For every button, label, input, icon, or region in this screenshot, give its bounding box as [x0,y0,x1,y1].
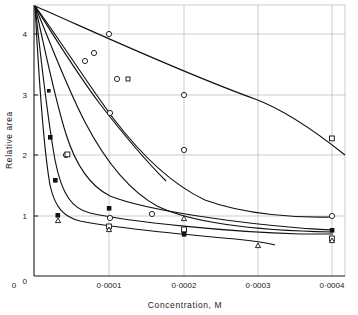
xtick-label-0: 0 [12,281,17,290]
tick-marks [34,34,38,216]
marker-open-triangle [55,218,60,223]
marker-open-square [65,152,70,157]
y-axis-title: Relative area [4,111,14,169]
xtick-label-0.0002: 0·0002 [172,281,197,290]
marker-filled-square [53,178,58,183]
marker-open-square [182,227,187,232]
marker-open-circle [114,76,119,81]
ytick-label-4: 4 [23,30,28,39]
marker-filled-square [47,89,51,93]
xtick-label-0.0003: 0·0003 [246,281,271,290]
marker-filled-square [182,232,187,237]
xtick-label-0.0004: 0·0004 [320,281,345,290]
xtick-label-0.0001: 0·0001 [97,281,122,290]
marker-open-circle [107,110,112,115]
curve-series-6-open-square [35,6,332,230]
marker-filled-square [107,206,112,211]
marker-filled-square [48,135,53,140]
data-curves [35,6,345,245]
marker-open-circle [106,31,111,36]
ytick-label-3: 3 [23,91,28,100]
marker-open-triangle [255,243,260,248]
marker-open-circle [82,58,87,63]
marker-group-open-circle [63,31,334,233]
ytick-label-0: 0 [23,277,28,286]
x-axis-title: Concentration, M [148,300,222,310]
marker-open-square [126,77,130,81]
chart-figure: 4 3 2 1 0 0 0·0001 0·0002 0·0003 0·0004 … [0,0,358,315]
marker-filled-square [330,228,335,233]
ytick-label-2: 2 [23,151,28,160]
marker-open-circle [149,211,154,216]
chart-svg: 4 3 2 1 0 0 0·0001 0·0002 0·0003 0·0004 … [0,0,358,315]
y-tick-labels: 4 3 2 1 0 [23,30,28,286]
marker-open-circle [181,92,186,97]
marker-open-circle [107,215,112,220]
ytick-label-1: 1 [23,212,28,221]
marker-filled-square [56,213,61,218]
marker-open-circle [91,50,96,55]
marker-open-square [330,136,335,141]
marker-open-circle [329,213,334,218]
marker-open-circle [181,147,186,152]
curve-series-1-straight [35,6,345,155]
x-tick-labels: 0 0·0001 0·0002 0·0003 0·0004 [12,281,345,290]
curve-series-4 [35,6,332,232]
marker-group-open-triangle [55,216,334,248]
